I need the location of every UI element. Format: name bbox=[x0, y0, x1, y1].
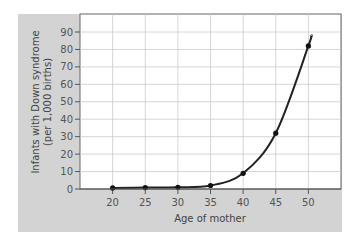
x-tick-label: 20 bbox=[106, 197, 119, 208]
data-point bbox=[241, 171, 246, 176]
x-axis-title: Age of mother bbox=[174, 213, 247, 224]
x-axis-ticks: 20253035404550 bbox=[106, 189, 314, 208]
y-axis-ticks: 0102030405060708090 bbox=[60, 27, 80, 195]
y-tick-label: 90 bbox=[60, 27, 73, 38]
x-tick-label: 45 bbox=[269, 197, 282, 208]
x-tick-label: 50 bbox=[302, 197, 315, 208]
y-tick-label: 10 bbox=[60, 166, 73, 177]
y-tick-label: 40 bbox=[60, 114, 73, 125]
svg-text:(per 1,000 births): (per 1,000 births) bbox=[42, 58, 53, 146]
svg-text:Infants with Down syndrome: Infants with Down syndrome bbox=[30, 30, 41, 173]
x-tick-label: 30 bbox=[172, 197, 185, 208]
y-tick-label: 50 bbox=[60, 96, 73, 107]
x-tick-label: 40 bbox=[237, 197, 250, 208]
y-tick-label: 30 bbox=[60, 131, 73, 142]
y-tick-label: 70 bbox=[60, 61, 73, 72]
x-tick-label: 35 bbox=[204, 197, 217, 208]
line-chart: 0102030405060708090 20253035404550 Age o… bbox=[0, 0, 358, 245]
data-point bbox=[306, 43, 311, 48]
data-point bbox=[110, 185, 115, 190]
y-tick-label: 0 bbox=[67, 184, 73, 195]
y-tick-label: 60 bbox=[60, 79, 73, 90]
y-axis-title: Infants with Down syndrome (per 1,000 bi… bbox=[30, 30, 53, 173]
y-tick-label: 20 bbox=[60, 149, 73, 160]
data-point bbox=[273, 131, 278, 136]
y-tick-label: 80 bbox=[60, 44, 73, 55]
x-tick-label: 25 bbox=[139, 197, 152, 208]
data-point bbox=[208, 183, 213, 188]
